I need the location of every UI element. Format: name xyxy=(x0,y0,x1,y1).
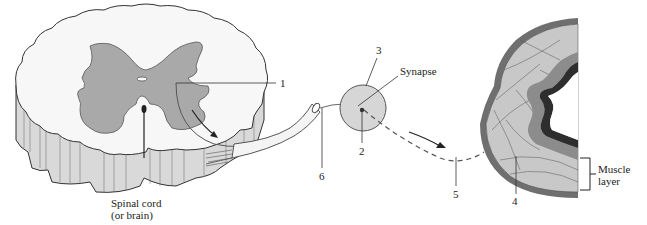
muscle-layer-bracket xyxy=(580,158,596,190)
muscle-layer-label: Muscle layer xyxy=(598,163,630,187)
ganglion-cell xyxy=(340,85,386,131)
label-1: 1 xyxy=(280,77,286,89)
reflex-arc-diagram xyxy=(0,0,647,225)
spinal-cord xyxy=(16,4,270,192)
central-canal xyxy=(137,77,147,81)
label-5: 5 xyxy=(453,188,459,200)
synapse-label: Synapse xyxy=(400,65,437,77)
label-4: 4 xyxy=(512,195,518,207)
muscle-organ xyxy=(480,18,578,198)
direction-arrow xyxy=(409,132,440,146)
spinal-cord-label: Spinal cord (or brain) xyxy=(111,197,161,221)
leader-3 xyxy=(366,58,377,86)
label-3: 3 xyxy=(376,44,382,56)
cell-nucleus xyxy=(360,108,364,112)
label-2: 2 xyxy=(359,145,365,157)
label-6: 6 xyxy=(319,170,325,182)
